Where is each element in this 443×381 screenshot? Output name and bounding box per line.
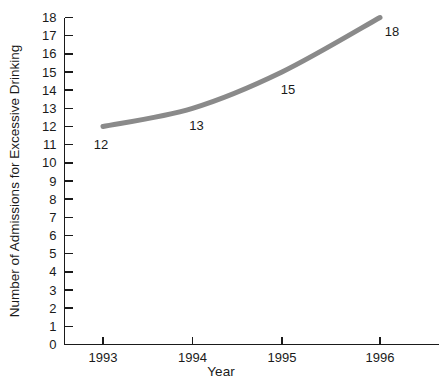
y-tick-label: 5 — [49, 246, 56, 261]
x-axis-ticks: 1993199419951996 — [89, 337, 395, 365]
y-tick-label: 3 — [49, 283, 56, 298]
x-tick-label: 1995 — [268, 350, 297, 365]
y-tick-label: 12 — [42, 119, 56, 134]
y-axis-title: Number of Admissions for Excessive Drink… — [7, 45, 22, 317]
y-tick-label: 18 — [42, 10, 56, 25]
y-tick-label: 13 — [42, 101, 56, 116]
data-point-label: 18 — [385, 24, 399, 39]
y-tick-label: 7 — [49, 210, 56, 225]
axis-lines — [65, 18, 439, 345]
data-point-label: 13 — [189, 118, 203, 133]
y-tick-label: 8 — [49, 192, 56, 207]
y-tick-label: 2 — [49, 301, 56, 316]
x-tick-label: 1993 — [89, 350, 118, 365]
y-axis-ticks: 0123456789101112131415161718 — [42, 10, 72, 352]
data-point-label: 12 — [94, 137, 108, 152]
x-tick-label: 1996 — [366, 350, 395, 365]
data-point-label: 15 — [281, 82, 295, 97]
y-tick-label: 1 — [49, 319, 56, 334]
y-tick-label: 15 — [42, 65, 56, 80]
x-axis-title: Year — [207, 364, 235, 379]
y-tick-label: 0 — [49, 337, 56, 352]
line-chart: 0123456789101112131415161718199319941995… — [0, 0, 443, 381]
y-tick-label: 10 — [42, 155, 56, 170]
y-tick-label: 9 — [49, 174, 56, 189]
y-tick-label: 6 — [49, 228, 56, 243]
data-series-line — [103, 18, 380, 127]
y-tick-label: 4 — [49, 264, 56, 279]
chart-canvas: 0123456789101112131415161718199319941995… — [0, 0, 443, 381]
y-tick-label: 11 — [43, 137, 57, 152]
y-tick-label: 16 — [42, 46, 56, 61]
y-tick-label: 14 — [42, 83, 56, 98]
y-tick-label: 17 — [42, 28, 56, 43]
x-tick-label: 1994 — [178, 350, 207, 365]
